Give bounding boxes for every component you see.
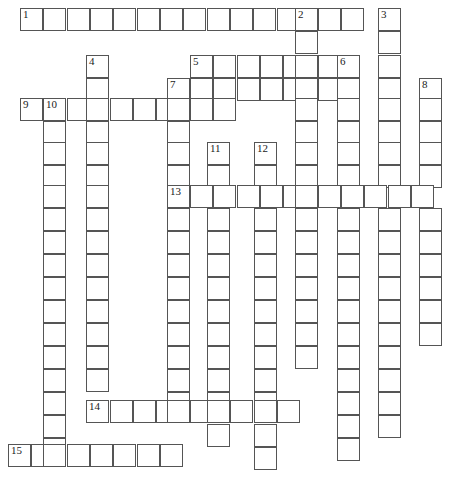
crossword-cell[interactable] (43, 369, 66, 392)
crossword-cell[interactable] (86, 323, 109, 346)
crossword-cell[interactable] (207, 369, 230, 392)
crossword-cell[interactable] (254, 300, 277, 323)
crossword-cell[interactable] (337, 392, 360, 415)
crossword-cell[interactable] (207, 346, 230, 369)
crossword-cell[interactable] (337, 323, 360, 346)
crossword-cell[interactable] (378, 121, 401, 144)
crossword-cell[interactable] (167, 277, 190, 300)
crossword-cell[interactable] (183, 8, 206, 31)
crossword-cell-start-6[interactable]: 6 (337, 55, 360, 78)
crossword-cell[interactable] (378, 346, 401, 369)
crossword-cell[interactable] (337, 98, 360, 121)
crossword-cell[interactable] (337, 438, 360, 461)
crossword-cell[interactable] (167, 300, 190, 323)
crossword-cell[interactable] (254, 369, 277, 392)
crossword-cell[interactable] (337, 231, 360, 254)
crossword-cell[interactable] (86, 98, 109, 121)
crossword-cell[interactable] (341, 8, 364, 31)
crossword-cell[interactable] (295, 231, 318, 254)
crossword-cell[interactable] (167, 369, 190, 392)
crossword-cell[interactable] (43, 121, 66, 144)
crossword-cell[interactable] (133, 400, 156, 423)
crossword-cell[interactable] (137, 444, 160, 467)
crossword-cell[interactable] (43, 415, 66, 438)
crossword-cell[interactable] (86, 277, 109, 300)
crossword-cell[interactable] (43, 8, 66, 31)
crossword-cell[interactable] (207, 8, 230, 31)
crossword-cell-start-2[interactable]: 2 (295, 8, 318, 31)
crossword-cell[interactable] (167, 98, 190, 121)
crossword-cell[interactable] (378, 231, 401, 254)
crossword-cell[interactable] (86, 300, 109, 323)
crossword-cell[interactable] (378, 300, 401, 323)
crossword-cell[interactable] (378, 55, 401, 78)
crossword-cell[interactable] (86, 142, 109, 165)
crossword-cell[interactable] (337, 208, 360, 231)
crossword-cell[interactable] (43, 142, 66, 165)
crossword-cell[interactable] (90, 444, 113, 467)
crossword-cell[interactable] (295, 323, 318, 346)
crossword-cell[interactable] (86, 369, 109, 392)
crossword-cell[interactable] (167, 121, 190, 144)
crossword-cell[interactable] (213, 55, 236, 78)
crossword-cell[interactable] (43, 346, 66, 369)
crossword-cell[interactable] (254, 254, 277, 277)
crossword-cell[interactable] (318, 185, 341, 208)
crossword-cell[interactable] (378, 415, 401, 438)
crossword-cell[interactable] (318, 8, 341, 31)
crossword-cell[interactable] (337, 346, 360, 369)
crossword-cell[interactable] (419, 142, 442, 165)
crossword-cell[interactable] (86, 185, 109, 208)
crossword-cell[interactable] (167, 231, 190, 254)
crossword-cell[interactable] (207, 277, 230, 300)
crossword-cell[interactable] (260, 185, 283, 208)
crossword-cell[interactable] (237, 55, 260, 78)
crossword-cell[interactable] (207, 323, 230, 346)
crossword-cell[interactable] (207, 400, 230, 423)
crossword-cell[interactable] (167, 400, 190, 423)
crossword-cell[interactable] (254, 208, 277, 231)
crossword-cell[interactable] (86, 121, 109, 144)
crossword-cell[interactable] (337, 254, 360, 277)
crossword-cell[interactable] (190, 98, 213, 121)
crossword-cell[interactable] (295, 277, 318, 300)
crossword-cell[interactable] (341, 185, 364, 208)
crossword-cell[interactable] (43, 323, 66, 346)
crossword-cell[interactable] (160, 444, 183, 467)
crossword-cell[interactable] (43, 444, 66, 467)
crossword-cell[interactable] (378, 98, 401, 121)
crossword-cell[interactable] (419, 121, 442, 144)
crossword-cell[interactable] (337, 300, 360, 323)
crossword-cell[interactable] (253, 8, 276, 31)
crossword-cell[interactable] (295, 55, 318, 78)
crossword-cell[interactable] (86, 208, 109, 231)
crossword-cell[interactable] (43, 392, 66, 415)
crossword-cell[interactable] (254, 447, 277, 470)
crossword-cell[interactable] (67, 444, 90, 467)
crossword-cell[interactable] (295, 121, 318, 144)
crossword-cell[interactable] (254, 231, 277, 254)
crossword-cell[interactable] (260, 55, 283, 78)
crossword-cell[interactable] (43, 254, 66, 277)
crossword-cell-start-12[interactable]: 12 (254, 142, 277, 165)
crossword-cell-start-14[interactable]: 14 (86, 400, 109, 423)
crossword-cell[interactable] (43, 300, 66, 323)
crossword-cell-start-11[interactable]: 11 (207, 142, 230, 165)
crossword-cell[interactable] (230, 8, 253, 31)
crossword-cell[interactable] (295, 254, 318, 277)
crossword-cell[interactable] (388, 185, 411, 208)
crossword-cell[interactable] (133, 98, 156, 121)
crossword-cell[interactable] (419, 254, 442, 277)
crossword-cell[interactable] (295, 300, 318, 323)
crossword-cell[interactable] (295, 31, 318, 54)
crossword-cell-start-3[interactable]: 3 (378, 8, 401, 31)
crossword-cell[interactable] (378, 254, 401, 277)
crossword-cell[interactable] (167, 254, 190, 277)
crossword-cell[interactable] (254, 323, 277, 346)
crossword-cell[interactable] (378, 369, 401, 392)
crossword-cell[interactable] (207, 254, 230, 277)
crossword-cell[interactable] (337, 121, 360, 144)
crossword-cell[interactable] (254, 277, 277, 300)
crossword-cell[interactable] (378, 323, 401, 346)
crossword-cell[interactable] (43, 208, 66, 231)
